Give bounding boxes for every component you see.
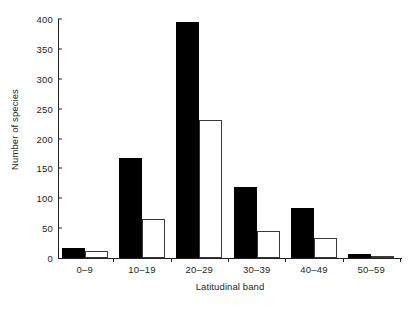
y-tick-label: 100 <box>23 193 53 204</box>
bar-light <box>142 219 165 258</box>
bar-dark <box>62 248 85 258</box>
bar-light <box>257 231 280 258</box>
y-tick-label: 300 <box>23 73 53 84</box>
x-category-label: 20–29 <box>186 264 213 275</box>
bar-light <box>371 256 394 258</box>
x-tick-mark <box>285 258 286 262</box>
bar-light <box>314 238 337 258</box>
bar-light <box>85 251 108 258</box>
x-tick-mark <box>171 258 172 262</box>
y-tick-label: 50 <box>23 223 53 234</box>
y-tick-mark <box>58 78 62 79</box>
y-tick-label: 150 <box>23 163 53 174</box>
x-axis-line <box>58 258 402 259</box>
y-axis-ticks: 050100150200250300350400 <box>20 0 53 309</box>
x-tick-mark <box>400 258 401 262</box>
plot-area <box>58 19 402 258</box>
bar-light <box>199 120 222 258</box>
y-tick-mark <box>58 108 62 109</box>
x-axis-title: Latitudinal band <box>58 281 402 292</box>
x-category-label: 40–49 <box>300 264 327 275</box>
y-tick-label: 0 <box>23 253 53 264</box>
y-tick-mark <box>58 19 62 20</box>
y-tick-mark <box>58 48 62 49</box>
y-tick-mark <box>58 138 62 139</box>
bar-dark <box>119 158 142 258</box>
y-tick-label: 200 <box>23 133 53 144</box>
x-category-label: 50–59 <box>358 264 385 275</box>
y-tick-label: 350 <box>23 43 53 54</box>
bar-dark <box>291 208 314 258</box>
x-tick-mark <box>228 258 229 262</box>
x-tick-mark <box>113 258 114 262</box>
y-tick-label: 250 <box>23 103 53 114</box>
x-category-label: 10–19 <box>128 264 155 275</box>
y-tick-mark <box>58 168 62 169</box>
y-tick-mark <box>58 198 62 199</box>
y-tick-label: 400 <box>23 14 53 25</box>
bar-dark <box>234 187 257 258</box>
bar-dark <box>348 254 371 258</box>
bar-dark <box>176 22 199 258</box>
y-axis-title-text: Number of species <box>9 89 20 170</box>
x-category-label: 30–39 <box>243 264 270 275</box>
y-tick-mark <box>58 228 62 229</box>
bar-chart: Number of species 0501001502002503003504… <box>0 0 414 309</box>
x-tick-mark <box>343 258 344 262</box>
x-category-label: 0–9 <box>76 264 92 275</box>
